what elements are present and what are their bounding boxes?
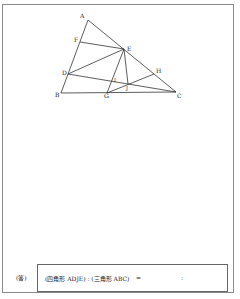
label-G: G xyxy=(104,92,109,99)
segment-DC xyxy=(68,74,176,92)
label-A: A xyxy=(79,12,85,19)
segment-AB xyxy=(61,20,88,93)
answer-expression: (四角形 ADJE) : (三角形 ABC) xyxy=(45,274,129,283)
segment-AC xyxy=(88,20,176,92)
label-C: C xyxy=(177,92,182,99)
segment-FE xyxy=(80,42,124,49)
label-J: J xyxy=(125,85,128,92)
label-D: D xyxy=(62,69,67,76)
answer-box[interactable]: (四角形 ADJE) : (三角形 ABC) = : xyxy=(37,264,228,292)
geometry-figure: A F E D B G C H I J xyxy=(0,0,240,120)
label-E: E xyxy=(127,45,131,52)
segment-EJ xyxy=(124,49,128,84)
label-B: B xyxy=(55,91,60,98)
segment-BC xyxy=(61,92,176,93)
label-I: I xyxy=(114,77,116,83)
answer-label: (答) xyxy=(16,273,27,282)
label-F: F xyxy=(74,36,78,43)
ratio-colon: : xyxy=(181,274,183,281)
equals-sign: = xyxy=(136,274,141,281)
label-H: H xyxy=(156,67,161,74)
